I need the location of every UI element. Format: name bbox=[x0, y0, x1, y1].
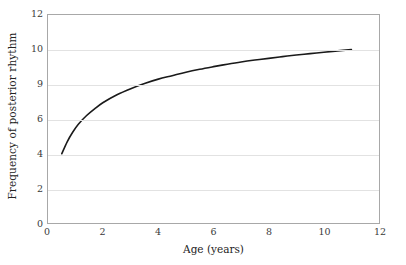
x-tick-label: 8 bbox=[266, 227, 272, 237]
y-tick-label: 6 bbox=[21, 114, 43, 124]
y-axis-tick-labels: 024691012 bbox=[19, 0, 43, 265]
gridline-y-8 bbox=[48, 85, 379, 86]
chart-figure: Frequency of posterior rhythm 024691012 … bbox=[0, 0, 406, 265]
y-tick-label: 9 bbox=[21, 79, 43, 89]
y-tick-label: 4 bbox=[21, 149, 43, 159]
x-tick-label: 4 bbox=[155, 227, 161, 237]
x-axis-tick-labels: 024681012 bbox=[47, 227, 380, 243]
x-tick-label: 0 bbox=[44, 227, 50, 237]
x-tick-label: 10 bbox=[318, 227, 330, 237]
gridline-y-6 bbox=[48, 120, 379, 121]
data-line-series bbox=[48, 15, 379, 223]
y-tick-label: 0 bbox=[21, 219, 43, 229]
posterior-rhythm-curve bbox=[62, 50, 352, 154]
x-axis-title: Age (years) bbox=[47, 243, 380, 255]
y-axis-title-text: Frequency of posterior rhythm bbox=[6, 32, 18, 199]
x-tick-label: 2 bbox=[99, 227, 105, 237]
plot-area bbox=[47, 14, 380, 224]
y-tick-label: 10 bbox=[21, 44, 43, 54]
gridline-y-4 bbox=[48, 155, 379, 156]
y-tick-label: 2 bbox=[21, 184, 43, 194]
x-tick-label: 12 bbox=[374, 227, 386, 237]
x-tick-label: 6 bbox=[210, 227, 216, 237]
y-tick-label: 12 bbox=[21, 9, 43, 19]
gridline-y-2 bbox=[48, 190, 379, 191]
gridline-y-10 bbox=[48, 50, 379, 51]
